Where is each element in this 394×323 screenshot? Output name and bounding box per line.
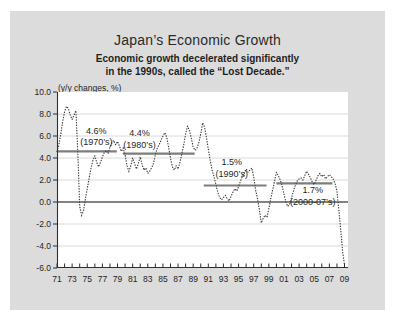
average-period-label: (2000-07’s) <box>268 197 358 209</box>
x-axis-year-label: 87 <box>170 274 186 284</box>
y-axis-tick-label: 8.0 <box>21 109 51 119</box>
x-axis-year-label: 75 <box>79 274 95 284</box>
x-axis-year-label: 95 <box>231 274 247 284</box>
x-axis-year-label: 09 <box>337 274 353 284</box>
average-value-label: 4.4% <box>94 128 184 140</box>
y-axis-tick-label: 6.0 <box>21 131 51 141</box>
gdp-growth-line-chart <box>57 92 348 268</box>
x-axis-year-label: 91 <box>200 274 216 284</box>
average-value-label: 1.7% <box>268 185 358 197</box>
x-axis-year-label: 81 <box>125 274 141 284</box>
x-axis-year-label: 07 <box>321 274 337 284</box>
chart-title: Japan’s Economic Growth <box>10 32 385 48</box>
y-axis-tick-label: -2.0 <box>21 219 51 229</box>
x-axis-year-label: 73 <box>64 274 80 284</box>
decade-average-annotation: 1.7%(2000-07’s) <box>268 185 358 208</box>
x-axis-year-label: 89 <box>185 274 201 284</box>
x-axis-year-label: 85 <box>155 274 171 284</box>
x-axis-year-label: 93 <box>215 274 231 284</box>
y-axis-tick-label: 10.0 <box>21 87 51 97</box>
x-axis-year-label: 03 <box>291 274 307 284</box>
x-axis-year-label: 01 <box>276 274 292 284</box>
chart-slide: Japan’s Economic Growth Economic growth … <box>10 11 385 310</box>
chart-subtitle-line2: in the 1990s, called the “Lost Decade.” <box>10 66 385 77</box>
x-axis-year-label: 83 <box>140 274 156 284</box>
x-axis-year-label: 77 <box>94 274 110 284</box>
x-axis-year-label: 99 <box>261 274 277 284</box>
average-value-label: 1.5% <box>187 157 277 169</box>
average-period-label: (1990’s) <box>187 169 277 181</box>
y-axis-tick-label: -6.0 <box>21 263 51 273</box>
x-axis-year-label: 79 <box>110 274 126 284</box>
average-period-label: (1980’s) <box>94 140 184 152</box>
y-axis-tick-label: 2.0 <box>21 175 51 185</box>
y-axis-tick-label: 4.0 <box>21 153 51 163</box>
decade-average-annotation: 1.5%(1990’s) <box>187 157 277 180</box>
x-axis-year-label: 05 <box>306 274 322 284</box>
y-axis-tick-label: 0.0 <box>21 197 51 207</box>
y-axis-tick-label: -4.0 <box>21 241 51 251</box>
x-axis-year-label: 97 <box>246 274 262 284</box>
screenshot-page: Japan’s Economic Growth Economic growth … <box>0 0 394 323</box>
x-axis-year-label: 71 <box>49 274 65 284</box>
chart-subtitle-line1: Economic growth decelerated significantl… <box>10 53 385 64</box>
decade-average-annotation: 4.4%(1980’s) <box>94 128 184 151</box>
